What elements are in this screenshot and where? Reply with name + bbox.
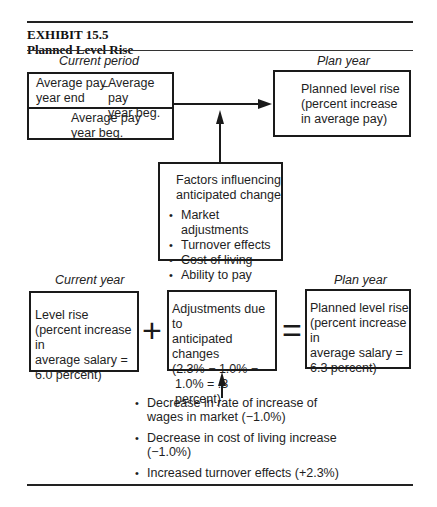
exhibit-number: EXHIBIT 15.5 <box>27 27 133 42</box>
equals-operator: = <box>282 313 302 347</box>
factors-heading: Factors influencing anticipated change <box>176 173 281 203</box>
pay-formula-box: Average pay year end − Average pay year … <box>27 72 174 140</box>
factors-list: Market adjustments Turnover effects Cost… <box>169 208 281 283</box>
adjustment-item: Increased turnover effects (+2.3%) <box>135 466 339 480</box>
bottom-rule <box>27 484 413 486</box>
arrow-to-plan-year <box>174 103 260 105</box>
plus-operator: + <box>142 313 162 347</box>
exhibit-heading: EXHIBIT 15.5 Planned Level Rise <box>27 27 133 57</box>
factors-arrow <box>219 122 221 163</box>
current-year-caption: Current year <box>55 273 124 287</box>
adjustment-factors-list: Decrease in rate of increase of wages in… <box>135 396 339 480</box>
plan-year-caption-top: Plan year <box>317 54 370 68</box>
formula-denominator: Average pay year beg. <box>71 111 141 141</box>
adjustments-box: Adjustments due to anticipated changes (… <box>167 290 277 371</box>
top-rule <box>27 21 413 23</box>
adjustment-item: Decrease in rate of increase of wages in… <box>135 396 339 424</box>
arrow-head-up-icon <box>216 110 224 124</box>
current-period-caption: Current period <box>59 54 139 68</box>
adjustment-item: Decrease in cost of living increase (−1.… <box>135 431 339 459</box>
planned-level-rise-box-top: Planned level rise (percent increase in … <box>273 70 411 137</box>
level-rise-box: Level rise (percent increase in average … <box>29 291 139 372</box>
factor-item: Turnover effects <box>169 238 281 253</box>
arrow-head-up-icon <box>218 372 226 386</box>
formula-numerator: Average pay year end − Average pay year … <box>29 74 172 109</box>
factor-item: Cost of living <box>169 253 281 268</box>
planned-level-rise-box-bottom: Planned level rise (percent increase in … <box>305 289 411 369</box>
plan-year-caption-bottom: Plan year <box>334 273 387 287</box>
title-rule <box>27 50 413 51</box>
factor-item: Ability to pay <box>169 268 281 283</box>
arrow-head-right-icon <box>258 99 272 109</box>
factor-item: Market adjustments <box>169 208 281 238</box>
factors-box: Factors influencing anticipated change M… <box>158 162 283 261</box>
avg-pay-year-end: Average pay year end <box>36 76 106 106</box>
